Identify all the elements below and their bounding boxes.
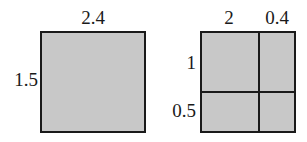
diagram-canvas: 2.4 1.5 2 0.4 1 0.5 <box>0 0 307 142</box>
whole-rectangle-width-label: 2.4 <box>81 8 105 28</box>
row-label-bottom: 0.5 <box>172 101 196 121</box>
whole-rectangle-height-label: 1.5 <box>14 70 38 90</box>
vertical-divider-line <box>258 31 260 133</box>
divided-rectangle[interactable] <box>200 31 296 133</box>
undivided-rectangle[interactable] <box>40 31 146 133</box>
column-label-right: 0.4 <box>265 8 289 28</box>
column-label-left: 2 <box>224 8 234 28</box>
row-label-top: 1 <box>187 53 197 73</box>
horizontal-divider-line <box>200 91 296 93</box>
